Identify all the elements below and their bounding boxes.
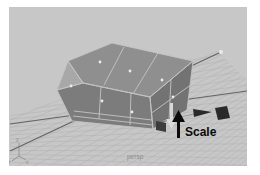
face-center-dot[interactable] bbox=[172, 96, 175, 99]
face-center-dot[interactable] bbox=[101, 100, 104, 103]
face-center-dot[interactable] bbox=[70, 85, 73, 88]
figure-page: Scale persp y z x bbox=[0, 0, 260, 175]
scale-annotation-label: Scale bbox=[185, 125, 217, 139]
camera-name-label: persp bbox=[127, 153, 144, 161]
viewport-canvas: Scale persp y z x bbox=[0, 0, 260, 175]
grid-far-corner-highlight bbox=[219, 50, 223, 54]
face-center-dot[interactable] bbox=[99, 61, 102, 64]
face-center-dot[interactable] bbox=[131, 111, 134, 114]
face-center-dot[interactable] bbox=[129, 70, 132, 73]
face-center-dot[interactable] bbox=[161, 79, 164, 82]
